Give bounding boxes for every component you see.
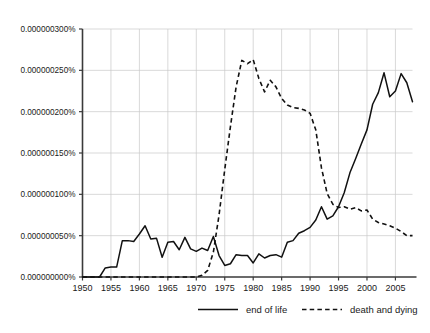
x-axis-tick-label: 1990 [300,283,320,293]
chart-axes [79,29,417,281]
x-axis-tick-label: 1985 [272,283,292,293]
x-axis-tick-label: 1970 [186,283,206,293]
y-axis-tick-label: 0.000000200% [20,108,75,117]
chart-legend: end of lifedeath and dying [198,304,418,315]
y-axis-tick-label: 0.000000150% [20,149,75,158]
x-axis-tick-label: 1960 [129,283,149,293]
y-axis-tick-labels: 0.000000000%0.000000050%0.000000100%0.00… [20,25,75,282]
x-axis-tick-label: 2005 [385,283,405,293]
x-axis-tick-label: 1955 [101,283,121,293]
x-axis-tick-label: 1965 [158,283,178,293]
horizontal-gridlines [83,29,413,236]
ngram-chart: 0.000000000%0.000000050%0.000000100%0.00… [0,0,430,333]
series-line-end-of-life [83,73,413,277]
x-axis-tick-label: 1980 [243,283,263,293]
legend-label-end-of-life: end of life [246,304,287,315]
legend-label-death-and-dying: death and dying [350,304,418,315]
y-axis-tick-label: 0.000000100% [20,190,75,199]
y-axis-tick-label: 0.000000300% [20,25,75,34]
x-axis-tick-label: 2000 [357,283,377,293]
y-axis-tick-label: 0.000000050% [20,232,75,241]
y-axis-tick-label: 0.000000250% [20,66,75,75]
y-axis-tick-label: 0.000000000% [20,273,75,282]
x-axis-tick-label: 1975 [215,283,235,293]
x-axis-tick-label: 1995 [329,283,349,293]
x-axis-tick-label: 1950 [72,283,92,293]
data-series-group [83,60,413,277]
series-line-death-and-dying [83,60,413,277]
chart-canvas: 0.000000000%0.000000050%0.000000100%0.00… [0,0,430,333]
x-axis-tick-labels: 1950195519601965197019751980198519901995… [72,283,405,293]
